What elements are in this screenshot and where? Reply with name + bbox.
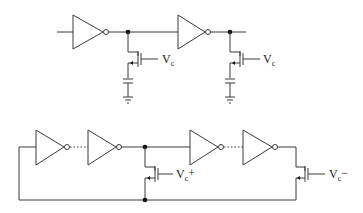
arrow-icon — [147, 176, 150, 180]
source-wire — [128, 63, 138, 78]
arrow-icon — [297, 176, 300, 180]
inverter-c — [190, 130, 218, 165]
control-label-vc-plus: Vc+ — [176, 166, 195, 183]
circuit-diagram: Vc Vc — [0, 0, 363, 213]
inverter-c-bubble — [219, 145, 224, 150]
bottom-circuit: Vc+ Vc− — [19, 130, 348, 202]
control-label-vc-2: Vc — [263, 52, 276, 68]
inverter-d-bubble — [273, 145, 278, 150]
inverter-2-bubble — [206, 30, 211, 35]
control-label-vc-minus: Vc− — [329, 166, 348, 183]
control-label-vc-1: Vc — [162, 52, 175, 68]
varactor-stage-1: Vc — [123, 32, 175, 103]
inverter-a-bubble — [65, 145, 70, 150]
inverter-1 — [73, 15, 103, 49]
source-wire — [230, 63, 240, 78]
arrow-icon — [130, 61, 133, 65]
transistor-vc-plus: Vc+ — [145, 147, 195, 200]
inverter-1-bubble — [104, 30, 109, 35]
inverter-b — [88, 130, 116, 165]
output-wire — [278, 147, 306, 171]
inverter-a — [36, 130, 64, 165]
drain-wire — [230, 32, 240, 56]
source-wire — [145, 178, 155, 200]
source-wire — [296, 178, 305, 200]
drain-wire — [128, 32, 138, 56]
top-circuit: Vc Vc — [57, 15, 276, 103]
varactor-stage-2: Vc — [225, 32, 276, 103]
transistor-vc-minus: Vc− — [296, 166, 348, 200]
inverter-d — [243, 130, 272, 165]
inverter-2 — [178, 15, 205, 49]
arrow-icon — [232, 61, 235, 65]
inverter-b-bubble — [117, 145, 122, 150]
drain-wire — [145, 147, 155, 171]
junction-node-4 — [143, 198, 148, 203]
